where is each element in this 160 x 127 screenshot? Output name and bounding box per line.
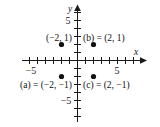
- point-label-top-right: (b) = (2, 1): [83, 33, 125, 44]
- y-tick-label-pos5: 5: [66, 15, 71, 26]
- x-axis-arrow-icon: [140, 57, 147, 64]
- x-tick-label-neg5: −5: [26, 65, 37, 76]
- datapoint-c: [91, 74, 96, 79]
- y-tick-label-neg5: −5: [61, 95, 72, 106]
- datapoint-a: [59, 74, 64, 79]
- x-axis-label: x: [133, 47, 139, 57]
- coordinate-plane-svg: x y −5 5 5 −5 (−2, 1) (b) = (2, 1) (a) =…: [0, 0, 160, 127]
- y-axis-label: y: [67, 4, 73, 14]
- point-label-top-left: (−2, 1): [46, 33, 72, 44]
- x-tick-label-pos5: 5: [115, 65, 120, 76]
- point-label-bottom-left: (a) = (−2, −1): [20, 80, 72, 91]
- y-axis-arrow-icon: [74, 5, 81, 12]
- coordinate-plane-figure: x y −5 5 5 −5 (−2, 1) (b) = (2, 1) (a) =…: [0, 0, 160, 127]
- point-label-bottom-right: (c) = (2, −1): [83, 80, 130, 91]
